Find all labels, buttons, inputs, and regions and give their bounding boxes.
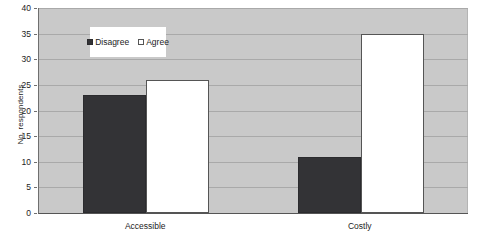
y-axis-tick-label: 40	[22, 3, 31, 13]
bar-accessible-disagree	[83, 95, 146, 213]
bar-chart: No. respondents 0510152025303540 Disagre…	[0, 0, 485, 247]
legend-label-disagree: Disagree	[95, 37, 129, 47]
x-axis-label-costly: Costly	[348, 221, 372, 231]
legend-entry-disagree: Disagree	[87, 37, 129, 47]
bar-accessible-agree	[146, 80, 209, 213]
y-axis-tick-label: 0	[26, 208, 31, 218]
y-axis-tick-label: 5	[26, 182, 31, 192]
x-axis-label-accessible: Accessible	[125, 221, 166, 231]
y-axis-tick-mark	[34, 59, 37, 60]
y-axis-tick-mark	[34, 213, 37, 214]
y-axis-tick-label: 15	[22, 131, 31, 141]
y-axis-tick-mark	[34, 162, 37, 163]
legend-swatch-disagree-icon	[87, 39, 93, 45]
bar-costly-disagree	[298, 157, 361, 213]
legend-label-agree: Agree	[146, 37, 169, 47]
y-axis-tick-label: 25	[22, 80, 31, 90]
legend-swatch-agree-icon	[138, 39, 144, 45]
y-axis-tick-mark	[34, 8, 37, 9]
y-axis-tick-mark	[34, 85, 37, 86]
y-axis-tick-mark	[34, 34, 37, 35]
y-axis-tick-label: 35	[22, 29, 31, 39]
x-axis-category-labels: AccessibleCostly	[38, 221, 467, 241]
y-axis-tick-label: 20	[22, 106, 31, 116]
y-axis-tick-label: 30	[22, 54, 31, 64]
gridline	[39, 8, 468, 9]
y-axis-tick-mark	[34, 187, 37, 188]
y-axis-tick-label: 10	[22, 157, 31, 167]
y-axis-tick-labels: 0510152025303540	[0, 0, 34, 247]
y-axis-tick-mark	[34, 111, 37, 112]
bar-costly-agree	[361, 34, 424, 213]
legend-entry-agree: Agree	[138, 37, 169, 47]
y-axis-tick-mark	[34, 136, 37, 137]
chart-legend: Disagree Agree	[90, 27, 166, 57]
